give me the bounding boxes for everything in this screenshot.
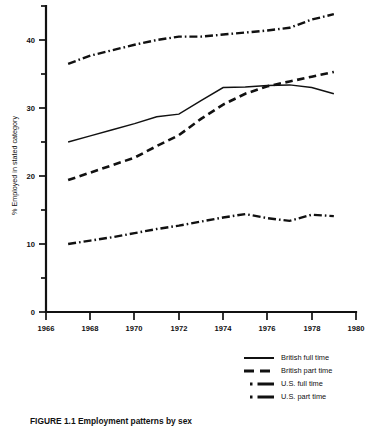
legend-label-us-part-time: U.S. part time [281, 393, 326, 400]
series-line-british-part-time [68, 72, 334, 180]
legend-item-us-full-time: U.S. full time [243, 377, 373, 390]
series-line-us-part-time [68, 214, 334, 244]
y-tick-label-20: 20 [27, 172, 35, 181]
y-tick-label-0: 0 [31, 308, 35, 317]
figure-caption: FIGURE 1.1 Employment patterns by sex [30, 416, 370, 426]
y-tick-label-40: 40 [27, 36, 35, 45]
legend-item-us-part-time: U.S. part time [243, 391, 373, 404]
x-tick-label-1970: 1970 [126, 324, 143, 333]
chart-plot-area: 0 10 20 30 40 1966 1968 1970 1972 1974 1… [0, 0, 377, 340]
x-tick-label-1968: 1968 [82, 324, 99, 333]
legend-label-british-full-time: British full time [281, 354, 329, 361]
x-tick-label-1966: 1966 [38, 324, 55, 333]
x-tick-label-1972: 1972 [171, 324, 188, 333]
dash-dot-line-key-icon [243, 378, 275, 390]
legend-item-british-full-time: British full time [243, 351, 373, 364]
x-axis-ticks [46, 312, 356, 320]
legend-item-british-part-time: British part time [243, 364, 373, 377]
y-tick-label-30: 30 [27, 104, 35, 113]
series-line-british-full-time [68, 85, 334, 142]
y-axis-title: % Employed in stated category [10, 116, 19, 215]
dash-dot-line-key-icon-2 [243, 391, 275, 403]
series-line-us-full-time [68, 14, 334, 64]
legend-label-british-part-time: British part time [281, 367, 332, 374]
solid-line-key-icon [243, 352, 275, 364]
x-tick-label-1976: 1976 [259, 324, 276, 333]
legend-label-us-full-time: U.S. full time [281, 380, 323, 387]
x-tick-label-1974: 1974 [215, 324, 233, 333]
dashed-line-key-icon [243, 365, 275, 377]
y-tick-label-10: 10 [27, 240, 35, 249]
x-tick-label-1978: 1978 [304, 324, 321, 333]
x-tick-label-1980: 1980 [348, 324, 365, 333]
chart-legend: British full time British part time U.S.… [243, 351, 373, 404]
